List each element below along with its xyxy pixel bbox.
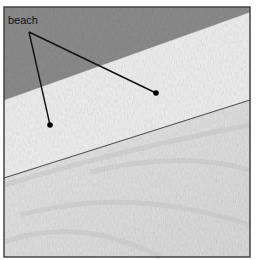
beach-diagram	[0, 0, 257, 260]
beach-label: beach	[8, 14, 38, 26]
pointer-dot	[153, 90, 159, 96]
pointer-dot	[47, 122, 53, 128]
